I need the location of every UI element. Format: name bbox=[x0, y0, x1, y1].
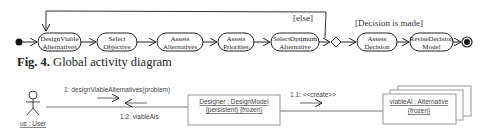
designer-object[interactable]: Designer : DesignModel {persistent} {fro… bbox=[188, 95, 280, 125]
activity-assess-alternatives[interactable]: Assess Alternatives bbox=[157, 33, 203, 51]
node-label: Objective bbox=[103, 43, 130, 51]
node-label: Alternatives bbox=[163, 43, 197, 51]
activity-assess-decision[interactable]: Assess Decision bbox=[357, 33, 397, 51]
node-label: Priorities bbox=[223, 43, 249, 51]
object-label: {frozen} bbox=[408, 107, 431, 115]
node-label: Alternatives bbox=[42, 43, 76, 51]
message-1-1: 1.1: <<create>> bbox=[290, 91, 336, 98]
message-1-2: 1.2: viableAls bbox=[120, 113, 159, 120]
alternative-multiobject[interactable]: viableAl : Alternative {frozen} bbox=[383, 86, 471, 124]
object-label: viableAl : Alternative bbox=[390, 98, 449, 105]
activity-revise-decision[interactable]: ReviseDecision Model bbox=[410, 33, 454, 51]
activity-select-optimum[interactable]: SelectOptimum Alternative bbox=[271, 33, 319, 51]
actor-user[interactable]: us : User bbox=[20, 91, 47, 127]
message-1: 1: designViableAlternatives(problem) bbox=[64, 86, 170, 94]
initial-node bbox=[16, 39, 23, 46]
node-label: Decision bbox=[365, 43, 390, 51]
decision-guard: [Decision is made] bbox=[355, 18, 423, 28]
node-label: Alternative bbox=[279, 43, 311, 51]
activity-design-viable[interactable]: DesignViable Alternatives bbox=[38, 33, 81, 51]
actor-label: us : User bbox=[20, 120, 47, 127]
diagram-canvas: [else] [Decision is made] DesignViable A… bbox=[0, 0, 491, 134]
decision-node bbox=[331, 37, 341, 47]
activity-select-objective[interactable]: Select Objective bbox=[97, 33, 137, 51]
object-label: Designer : DesignModel bbox=[199, 98, 269, 106]
node-label: Model bbox=[422, 43, 440, 51]
object-label: {persistent} {frozen} bbox=[206, 106, 264, 114]
actor-icon bbox=[26, 91, 40, 115]
figure-caption: Fig. 4. Global activity diagram bbox=[17, 55, 172, 69]
final-node bbox=[462, 37, 472, 47]
activity-assess-priorities[interactable]: Assess Priorities bbox=[218, 33, 254, 51]
else-guard: [else] bbox=[293, 13, 313, 23]
